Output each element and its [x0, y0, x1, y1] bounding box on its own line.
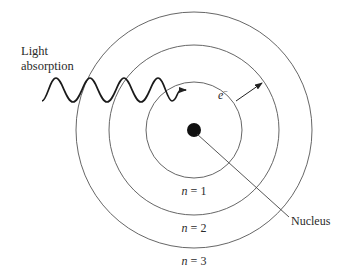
- orbit-label-n2: n = 2: [182, 221, 207, 235]
- light-label-line2: absorption: [21, 59, 75, 73]
- light-label-line1: Light: [21, 44, 49, 58]
- nucleus-leader-line: [197, 134, 289, 217]
- orbit-label-n3: n = 3: [182, 254, 207, 268]
- electron-charge: −: [223, 87, 228, 96]
- orbit-label-n1: n = 1: [182, 184, 207, 198]
- light-wave-icon: [42, 78, 186, 102]
- nucleus-dot: [187, 123, 201, 137]
- nucleus-label: Nucleus: [291, 214, 331, 228]
- bohr-atom-diagram: Light absorption e− Nucleus n = 1 n = 2 …: [0, 0, 350, 277]
- electron-transition-arrow: [236, 83, 262, 101]
- electron-label: e−: [218, 87, 228, 102]
